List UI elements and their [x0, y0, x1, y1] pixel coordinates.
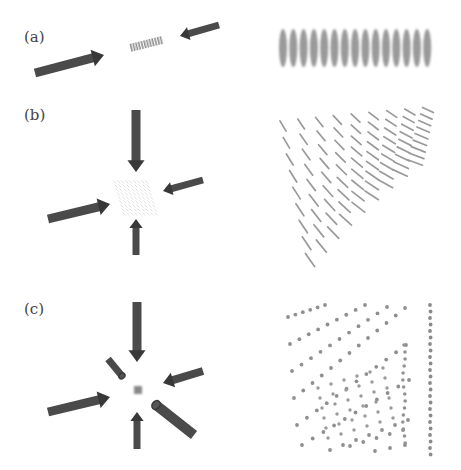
beam-arrow-icon: [46, 196, 112, 228]
panel-c: [46, 302, 433, 456]
beam-cylinder-icon: [105, 356, 127, 381]
beam-arrow-icon: [178, 19, 221, 43]
beam-cylinder-icon: [149, 398, 197, 439]
panel-b: [46, 107, 433, 266]
lattice-1d-preview: [130, 36, 163, 52]
beam-arrow-icon: [161, 174, 205, 198]
beam-arrow-icon: [161, 364, 205, 391]
beam-arrow-icon: [130, 412, 143, 449]
beam-arrow-icon: [127, 110, 144, 172]
lattice-3d-result: [286, 303, 432, 456]
lattice-2d-result: [280, 107, 433, 266]
lattice-2d-preview: [113, 181, 158, 216]
beam-arrow-icon: [129, 219, 142, 255]
lattice-1d-result: [279, 29, 431, 67]
panel-label-a: (a): [24, 28, 45, 46]
lattice-3d-preview: [134, 386, 142, 394]
figure: (a) (b) (c): [0, 0, 461, 470]
beam-arrow-icon: [128, 302, 145, 362]
figure-canvas: [0, 0, 461, 470]
panel-label-b: (b): [24, 106, 45, 124]
panel-a: [33, 19, 431, 82]
beam-arrow-icon: [33, 47, 106, 82]
beam-arrow-icon: [46, 389, 112, 421]
panel-label-c: (c): [24, 300, 44, 318]
